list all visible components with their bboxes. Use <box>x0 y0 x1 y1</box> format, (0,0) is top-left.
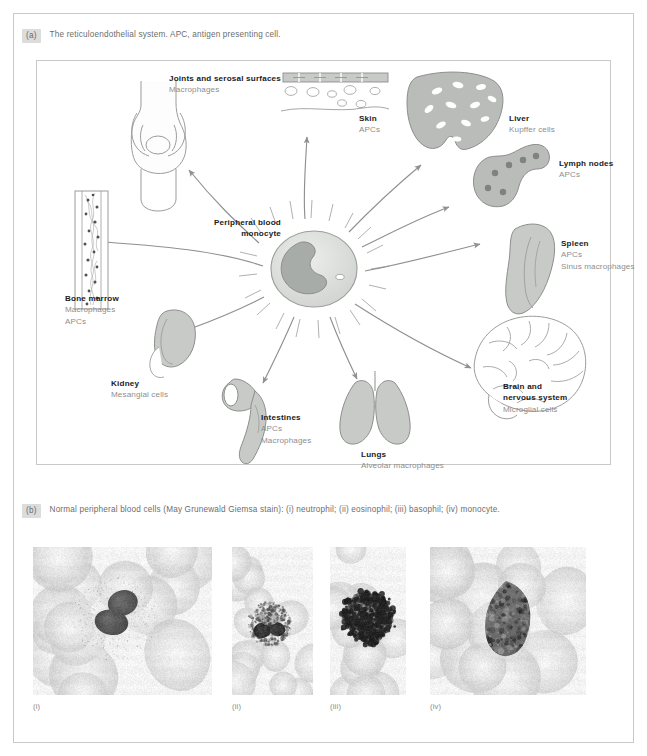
label-brain: Brain and nervous system Microglial cell… <box>503 381 567 415</box>
micrograph-label-ii: (ii) <box>232 702 241 711</box>
label-joints: Joints and serosal surfaces Macrophages <box>169 73 281 96</box>
label-spleen: Spleen APCs Sinus macrophages <box>561 238 635 272</box>
kidney-icon <box>150 310 196 378</box>
panel-a-caption-text: The reticuloendothelial system. APC, ant… <box>50 30 281 40</box>
label-liver: Liver Kupffer cells <box>509 113 555 136</box>
micrograph-label-i: (i) <box>33 702 40 711</box>
label-lungs: Lungs Alveolar macrophages <box>361 449 444 472</box>
skin-icon <box>281 73 389 111</box>
label-intestines: Intestines APCs Macrophages <box>261 412 311 446</box>
lungs-icon <box>340 371 410 444</box>
micrograph-basophil <box>330 547 406 695</box>
lymph-node-icon <box>473 144 549 206</box>
label-bone-marrow: Bone marrow Macrophages APCs <box>65 293 119 327</box>
label-kidney: Kidney Mesangial cells <box>111 378 168 401</box>
spleen-icon <box>506 224 555 314</box>
arrow-to-lymph-nodes <box>362 207 449 247</box>
caption-panel-b: (b) Normal peripheral blood cells (May G… <box>22 505 500 519</box>
liver-icon <box>407 72 503 149</box>
micrograph-label-iii: (iii) <box>330 702 341 711</box>
arrow-to-brain <box>355 304 471 368</box>
label-skin: Skin APCs <box>359 113 380 136</box>
peripheral-blood-monocyte-icon <box>271 231 357 307</box>
arrow-to-bone-marrow <box>89 241 263 266</box>
micrograph-monocyte <box>430 547 586 695</box>
arrow-to-intestines <box>263 317 294 383</box>
micrograph-neutrophil <box>33 547 212 695</box>
joint-icon <box>131 81 186 211</box>
panel-b-badge: (b) <box>22 504 41 518</box>
arrow-to-lungs <box>330 317 357 379</box>
figure-page: (a) The reticuloendothelial system. APC,… <box>0 0 647 756</box>
arrow-to-liver <box>349 165 421 232</box>
arrow-to-spleen <box>365 244 480 271</box>
arrow-to-kidney <box>187 297 264 330</box>
panel-b-caption-text: Normal peripheral blood cells (May Grune… <box>50 505 500 515</box>
caption-panel-a: (a) The reticuloendothelial system. APC,… <box>22 30 281 44</box>
reticuloendothelial-diagram: Joints and serosal surfaces Macrophages … <box>36 60 611 465</box>
arrow-to-skin <box>304 137 307 219</box>
panel-a-badge: (a) <box>22 29 41 43</box>
label-lymph-nodes: Lymph nodes APCs <box>559 158 614 181</box>
intestine-icon <box>222 379 266 464</box>
label-peripheral-blood-monocyte: Peripheral blood monocyte <box>181 217 281 240</box>
micrograph-label-iv: (iv) <box>430 702 441 711</box>
bone-marrow-icon <box>75 191 108 309</box>
micrograph-eosinophil <box>232 547 313 695</box>
